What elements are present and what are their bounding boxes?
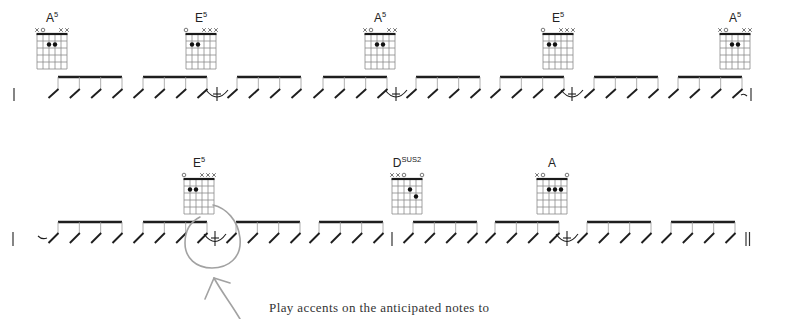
slash-note — [711, 89, 721, 98]
slash-note — [662, 233, 672, 243]
slash-note — [269, 233, 279, 243]
muted-string-icon — [565, 28, 569, 32]
finger-dot — [381, 42, 385, 46]
finger-dot — [188, 187, 192, 191]
finger-dot — [194, 187, 198, 191]
chord-name: A5 — [729, 10, 741, 25]
slash-note — [314, 89, 324, 98]
muted-string-icon — [535, 173, 539, 177]
slash-note — [310, 233, 320, 243]
slash-note — [155, 233, 165, 243]
chord-extension: 5 — [560, 10, 564, 19]
chord-name: DSUS2 — [393, 155, 421, 170]
slash-note — [356, 89, 366, 98]
slash-note — [683, 233, 693, 243]
chord-extension: 5 — [203, 10, 207, 19]
muted-string-icon — [390, 173, 394, 177]
slash-note — [606, 89, 616, 98]
chord-name: E5 — [195, 10, 207, 25]
slash-note — [550, 233, 560, 243]
muted-string-icon — [208, 28, 212, 32]
chord-extension: 5 — [54, 10, 58, 19]
finger-dot — [47, 42, 51, 46]
slash-note — [113, 89, 123, 98]
chord-diagram-a5: A5 — [363, 10, 397, 69]
sheet-music-page: A5E5A5E5A5 E5DSUS2A Play accents on the … — [0, 0, 794, 319]
muted-string-icon — [206, 173, 210, 177]
slash-note — [91, 89, 101, 98]
open-string-icon — [541, 173, 545, 177]
beamed-group — [227, 222, 301, 243]
open-string-icon — [541, 28, 545, 32]
beamed-group — [49, 222, 123, 243]
slash-note — [627, 89, 637, 98]
beamed-group — [578, 222, 652, 243]
open-string-icon — [724, 28, 728, 32]
muted-string-icon — [212, 173, 216, 177]
muted-string-icon — [387, 28, 391, 32]
muted-string-icon — [214, 28, 218, 32]
finger-dot — [190, 42, 194, 46]
muted-string-icon — [363, 28, 367, 32]
slash-note — [507, 233, 517, 243]
chord-extension: SUS2 — [402, 155, 422, 164]
muted-string-icon — [200, 173, 204, 177]
beamed-group — [134, 77, 208, 98]
slash-note — [468, 233, 478, 243]
slash-note — [91, 233, 101, 243]
finger-dot — [408, 187, 412, 191]
slash-note — [176, 89, 186, 98]
slash-note — [155, 89, 165, 98]
slash-note — [70, 233, 80, 243]
open-string-icon — [565, 173, 569, 177]
slash-note — [49, 89, 59, 98]
slash-note — [335, 89, 345, 98]
beamed-group — [407, 77, 481, 98]
arrow-shaft — [214, 278, 240, 319]
muted-string-icon — [396, 173, 400, 177]
muted-string-icon — [748, 28, 752, 32]
muted-string-icon — [59, 28, 63, 32]
slash-note — [649, 89, 659, 98]
muted-string-icon — [35, 28, 39, 32]
finger-dot — [559, 187, 563, 191]
slash-note — [407, 89, 417, 98]
chord-diagram-a5: A5 — [35, 10, 69, 69]
system-2: E5DSUS2A — [13, 155, 750, 246]
rhythm-notation: A5E5A5E5A5 E5DSUS2A — [0, 0, 794, 319]
slash-note — [669, 89, 679, 98]
beamed-group — [310, 222, 384, 243]
chord-name: A5 — [46, 10, 58, 25]
slash-note — [249, 89, 259, 98]
muted-string-icon — [65, 28, 69, 32]
beamed-group — [486, 222, 560, 243]
muted-string-icon — [742, 28, 746, 32]
beamed-group — [228, 77, 302, 98]
slash-note — [378, 89, 388, 98]
slash-note — [578, 233, 588, 243]
chord-diagram-dsus2: DSUS2 — [390, 155, 424, 214]
slash-note — [270, 89, 280, 98]
slash-note — [228, 89, 238, 98]
slash-note — [528, 233, 538, 243]
chord-diagram-a: A — [535, 156, 569, 214]
beamed-group — [134, 222, 208, 243]
chord-extension: 5 — [382, 10, 386, 19]
slash-note — [533, 89, 543, 98]
beamed-group — [314, 77, 388, 98]
slash-note — [599, 233, 609, 243]
slash-note — [620, 233, 630, 243]
anticipation-tie-icon — [206, 87, 228, 101]
finger-dot — [730, 42, 734, 46]
muted-string-icon — [393, 28, 397, 32]
beamed-group — [49, 77, 123, 98]
chord-diagram-a5: A5 — [718, 10, 752, 69]
finger-dot — [414, 194, 418, 198]
slash-note — [374, 233, 384, 243]
anticipation-tie-icon — [385, 87, 407, 101]
slash-note — [733, 89, 743, 98]
chord-diagram-e5: E5 — [541, 10, 575, 69]
slash-note — [491, 89, 501, 98]
finger-dot — [553, 42, 557, 46]
slash-note — [248, 233, 258, 243]
